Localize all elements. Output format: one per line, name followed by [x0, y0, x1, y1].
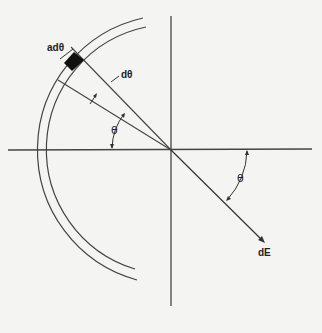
field-vector: [171, 150, 263, 241]
arrowhead-icon: [245, 150, 249, 155]
label-dtheta: dθ: [121, 69, 133, 80]
radial-line-upper: [71, 47, 171, 150]
inner-ring-arc: [46, 27, 146, 269]
radial-line-lower: [58, 80, 171, 150]
label-dE: dE: [258, 247, 271, 258]
dtheta-leader: [111, 76, 119, 82]
label-theta-left: θ: [111, 124, 118, 137]
label-arc-element: adθ: [47, 42, 64, 53]
arrowhead-icon: [93, 93, 97, 98]
arrowhead-icon: [110, 144, 114, 149]
charge-element: [64, 52, 84, 71]
label-theta-right: θ: [237, 172, 244, 185]
horizontal-axis: [8, 149, 312, 150]
